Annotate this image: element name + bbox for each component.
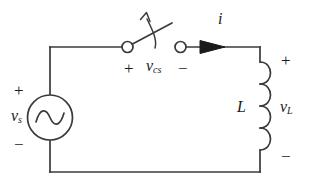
switch-voltage-subscript: cs — [153, 64, 161, 75]
inductor-designator: L — [237, 99, 246, 115]
current-label: i — [218, 11, 222, 27]
inductor-voltage-subscript: L — [287, 105, 293, 116]
inductor-turn-4 — [260, 128, 271, 150]
inductor-minus-sign: − — [281, 148, 291, 165]
inductor-plus-sign: + — [281, 52, 291, 69]
switch-voltage-label: vcs — [146, 58, 161, 75]
switch-right-terminal — [175, 42, 186, 53]
switch-plus-sign: + — [124, 60, 134, 77]
source-voltage-subscript: s — [18, 114, 22, 125]
inductor-voltage-label: vL — [280, 99, 293, 116]
switch-symbol[interactable] — [122, 13, 186, 53]
source-plus-sign: + — [14, 82, 24, 99]
inductor-turn-2 — [260, 84, 271, 106]
source-minus-sign: − — [14, 136, 24, 153]
circuit-diagram: + vs − + vcs − i + L vL − — [0, 0, 311, 187]
switch-minus-sign: − — [178, 60, 188, 77]
source-voltage-label: vs — [11, 108, 22, 125]
switch-blade — [133, 23, 173, 44]
ac-voltage-source-symbol — [28, 95, 73, 140]
current-direction-arrow — [200, 41, 225, 54]
switch-actuation-arrowhead — [141, 13, 151, 22]
inductor-turn-1 — [260, 62, 271, 84]
switch-left-terminal — [122, 42, 133, 53]
inductor-symbol — [260, 62, 271, 150]
circuit-schematic-canvas — [0, 0, 311, 187]
inductor-turn-3 — [260, 106, 271, 128]
current-arrowhead — [200, 41, 225, 54]
